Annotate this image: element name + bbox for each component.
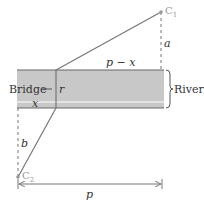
c1-label: C1 [165,6,177,19]
river-bridge-diagram: C1 a p − x Bridge r River x b C2 p [0,0,204,205]
c2-label: C2 [22,171,34,184]
river-brace [166,70,173,108]
c2-point [16,175,20,179]
b-label: b [21,138,28,149]
c1-point [159,10,163,14]
bridge-label: Bridge [9,84,46,95]
p-minus-x-label: p − x [106,57,135,68]
r-label: r [59,84,64,95]
a-label: a [164,38,171,49]
p-label: p [86,189,93,200]
x-label: x [32,98,38,109]
river-label: River [174,84,204,95]
